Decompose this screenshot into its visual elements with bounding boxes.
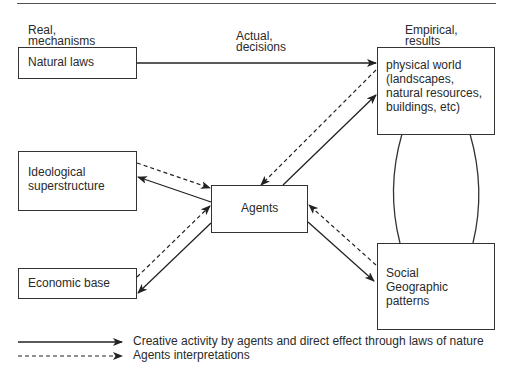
lens-right-curve	[470, 134, 479, 243]
arrow-ideological-to-agents-dashed	[137, 163, 210, 188]
arrow-agents-to-social	[308, 222, 374, 281]
arrow-agents-to-physical	[283, 95, 376, 185]
lens-left-curve	[393, 134, 402, 243]
box-economic-text: Economic base	[28, 276, 110, 290]
arrow-agents-to-economic	[138, 223, 211, 293]
label-actual-decisions: Actual, decisions	[236, 31, 286, 53]
legend-dashed-label: Agents interpretations	[133, 349, 250, 362]
box-natural-laws-text: Natural laws	[28, 55, 94, 69]
box-ideological-superstructure: Ideological superstructure	[18, 151, 137, 211]
box-natural-laws: Natural laws	[18, 47, 137, 79]
box-physical-world: physical world (landscapes, natural reso…	[377, 47, 495, 135]
arrow-physical-to-agents-dashed	[261, 70, 376, 185]
arrow-agents-to-ideological	[138, 177, 211, 202]
box-social-geographic-patterns: Social Geographic patterns	[377, 243, 495, 330]
box-physical-world-text: physical world (landscapes, natural reso…	[386, 58, 482, 114]
arrow-economic-to-agents-dashed	[137, 206, 210, 277]
label-real-mechanisms: Real, mechanisms	[28, 25, 95, 47]
box-agents-text: Agents	[241, 201, 278, 215]
label-empirical-results: Empirical, results	[405, 25, 458, 47]
legend-solid-label: Creative activity by agents and direct e…	[133, 335, 484, 348]
diagram-canvas: Real, mechanisms Actual, decisions Empir…	[0, 0, 513, 374]
box-economic-base: Economic base	[18, 268, 137, 299]
box-ideological-text: Ideological superstructure	[28, 165, 105, 193]
box-agents: Agents	[211, 185, 308, 233]
arrow-social-to-agents-dashed	[309, 205, 376, 265]
box-social-text: Social Geographic patterns	[386, 266, 448, 308]
